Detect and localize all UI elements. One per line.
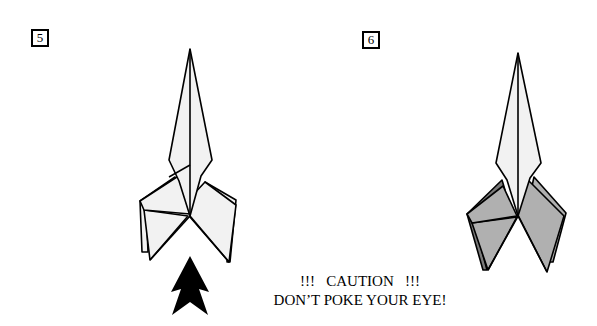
origami-rocket-step5	[140, 49, 236, 262]
caution-note: !!! CAUTION !!! DON’T POKE YOUR EYE!	[240, 272, 480, 310]
push-up-arrow-icon	[171, 256, 209, 315]
caution-heading: !!! CAUTION !!!	[240, 272, 480, 291]
origami-rocket-step6	[467, 53, 566, 272]
caution-warning-text: DON’T POKE YOUR EYE!	[240, 291, 480, 310]
